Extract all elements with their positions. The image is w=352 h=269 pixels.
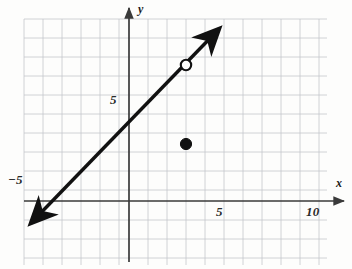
x-tick-label-neg5: −5 (8, 172, 23, 188)
grid-lines (24, 19, 327, 265)
function-line (31, 29, 219, 223)
filled-circle-point (180, 138, 191, 149)
x-tick-label-5: 5 (216, 204, 223, 220)
x-tick-label-10: 10 (306, 204, 319, 220)
open-circle-point (181, 60, 191, 70)
line-segment (31, 29, 219, 223)
x-axis-label: x (336, 176, 342, 191)
y-axis-label: y (138, 2, 143, 17)
y-tick-label-5: 5 (110, 92, 117, 108)
graph-figure: y x −5 5 10 5 (0, 0, 352, 269)
axis-lines (24, 8, 344, 262)
coordinate-plane-svg (0, 0, 352, 269)
